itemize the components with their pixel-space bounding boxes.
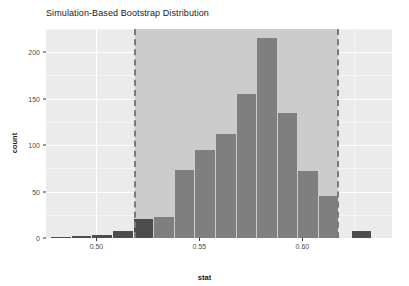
histogram-bar bbox=[154, 217, 174, 238]
y-axis-title: count bbox=[10, 133, 19, 153]
histogram-bar bbox=[92, 235, 112, 238]
histogram-bar bbox=[51, 237, 71, 238]
histogram-bar bbox=[72, 236, 92, 238]
confidence-interval-boundary-line bbox=[337, 29, 339, 238]
x-axis-tick-label: 0.55 bbox=[193, 243, 207, 250]
x-axis-tick-mark bbox=[199, 238, 200, 241]
histogram-bar bbox=[278, 113, 298, 238]
x-axis-tick-mark bbox=[302, 238, 303, 241]
x-axis-tick-label: 0.50 bbox=[90, 243, 104, 250]
x-axis-title: stat bbox=[0, 273, 409, 282]
y-axis-tick-label: 200 bbox=[20, 49, 40, 56]
y-axis-tick-label: 50 bbox=[20, 188, 40, 195]
y-axis-tick-label: 150 bbox=[20, 95, 40, 102]
chart-figure: Simulation-Based Bootstrap Distribution … bbox=[0, 0, 409, 286]
histogram-bar bbox=[319, 196, 339, 238]
histogram-bar bbox=[257, 38, 277, 238]
y-axis-tick-mark bbox=[43, 238, 46, 239]
confidence-interval-boundary-line bbox=[134, 29, 136, 238]
histogram-bar bbox=[216, 134, 236, 238]
y-axis-tick-label: 100 bbox=[20, 142, 40, 149]
histogram-bar bbox=[352, 231, 372, 238]
gridline-major-vertical bbox=[96, 29, 97, 238]
histogram-bar bbox=[175, 170, 195, 238]
gridline-minor-vertical bbox=[354, 29, 355, 238]
histogram-bar bbox=[113, 231, 133, 238]
y-axis-tick-mark bbox=[43, 145, 46, 146]
y-axis-tick-mark bbox=[43, 98, 46, 99]
x-axis-tick-label: 0.60 bbox=[296, 243, 310, 250]
chart-title: Simulation-Based Bootstrap Distribution bbox=[46, 8, 209, 18]
x-axis-tick-mark bbox=[96, 238, 97, 241]
histogram-bar bbox=[134, 219, 154, 238]
y-axis-tick-mark bbox=[43, 52, 46, 53]
histogram-bar bbox=[195, 150, 215, 238]
histogram-bar bbox=[298, 171, 318, 238]
plot-panel bbox=[46, 29, 392, 238]
y-axis-tick-label: 0 bbox=[20, 235, 40, 242]
y-axis-tick-mark bbox=[43, 191, 46, 192]
histogram-bar bbox=[237, 94, 257, 238]
